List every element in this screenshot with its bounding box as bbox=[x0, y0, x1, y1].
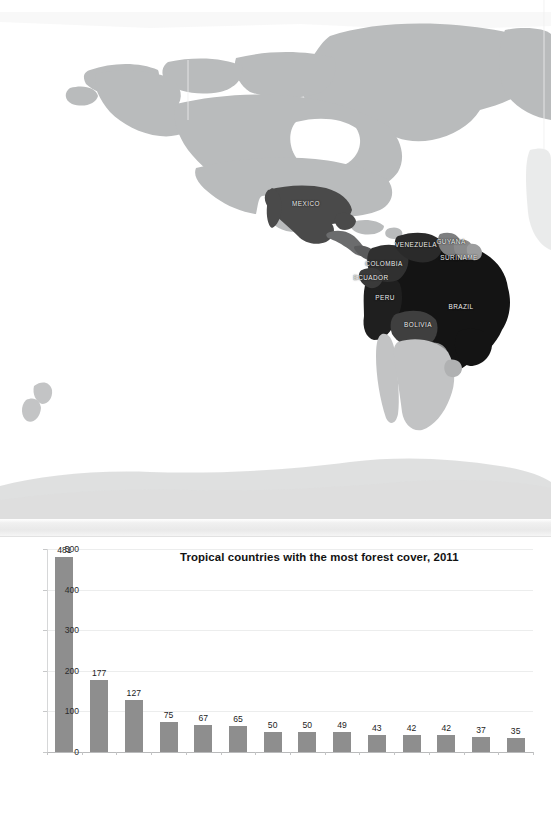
bar bbox=[298, 732, 316, 752]
y-axis-label: 200 bbox=[39, 666, 79, 676]
x-tick-mark bbox=[221, 752, 222, 755]
bar-value-label: 35 bbox=[496, 726, 536, 736]
bar bbox=[368, 735, 386, 752]
x-tick-mark bbox=[498, 752, 499, 755]
x-tick-mark bbox=[325, 752, 326, 755]
chart-y-axis-labels: 0100200300400500 bbox=[39, 549, 79, 752]
x-tick-mark bbox=[116, 752, 117, 755]
bar-value-label: 177 bbox=[79, 668, 119, 678]
world-map-graphic bbox=[0, 0, 551, 537]
y-axis-label: 500 bbox=[39, 544, 79, 554]
x-tick-mark bbox=[151, 752, 152, 755]
x-tick-mark bbox=[186, 752, 187, 755]
bar bbox=[125, 700, 143, 752]
bar bbox=[194, 725, 212, 752]
x-tick-mark bbox=[290, 752, 291, 755]
slide-seam-band bbox=[0, 519, 551, 537]
bar bbox=[229, 726, 247, 752]
gridline bbox=[47, 549, 533, 550]
world-map-panel: MEXICO VENEZUELA GUYANA SURINAME COLOMBI… bbox=[0, 0, 551, 537]
gridline bbox=[47, 630, 533, 631]
forest-cover-chart-panel: Tropical countries with the most forest … bbox=[0, 537, 551, 822]
bar bbox=[333, 732, 351, 752]
x-tick-mark bbox=[464, 752, 465, 755]
chart-plot-area: 4811771277567655050494342423735 01002003… bbox=[47, 549, 533, 752]
gridline bbox=[47, 671, 533, 672]
bar bbox=[507, 738, 525, 752]
bar bbox=[264, 732, 282, 752]
bar bbox=[472, 737, 490, 752]
bar bbox=[160, 722, 178, 752]
y-axis-label: 100 bbox=[39, 706, 79, 716]
bar bbox=[90, 680, 108, 752]
x-tick-mark bbox=[255, 752, 256, 755]
bar-value-label: 127 bbox=[114, 688, 154, 698]
bar bbox=[437, 735, 455, 752]
y-axis-label: 0 bbox=[39, 747, 79, 757]
x-tick-mark bbox=[429, 752, 430, 755]
x-tick-mark bbox=[533, 752, 534, 755]
x-tick-mark bbox=[359, 752, 360, 755]
x-tick-mark bbox=[394, 752, 395, 755]
gridline bbox=[47, 711, 533, 712]
y-axis-label: 400 bbox=[39, 585, 79, 595]
gridline bbox=[47, 590, 533, 591]
y-axis-label: 300 bbox=[39, 625, 79, 635]
x-tick-mark bbox=[82, 752, 83, 755]
bar bbox=[403, 735, 421, 752]
chart-plot-inner: 4811771277567655050494342423735 bbox=[47, 549, 533, 752]
